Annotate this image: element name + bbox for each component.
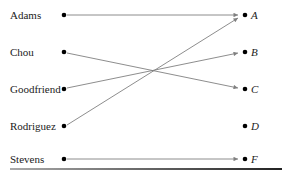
arrow-rodriguez-a: [67, 18, 238, 125]
codomain-dot-c: [243, 87, 248, 92]
codomain-dot-d: [243, 124, 248, 129]
codomain-dot-b: [243, 50, 248, 55]
domain-dot-goodfriend: [62, 87, 67, 92]
domain-dot-rodriguez: [62, 124, 67, 129]
codomain-dot-a: [243, 13, 248, 18]
domain-dot-adams: [62, 13, 67, 18]
domain-dot-chou: [62, 50, 67, 55]
codomain-dot-f: [243, 157, 248, 162]
domain-dot-stevens: [62, 157, 67, 162]
bottom-rule: [10, 168, 282, 170]
arrows-layer: [0, 0, 282, 171]
